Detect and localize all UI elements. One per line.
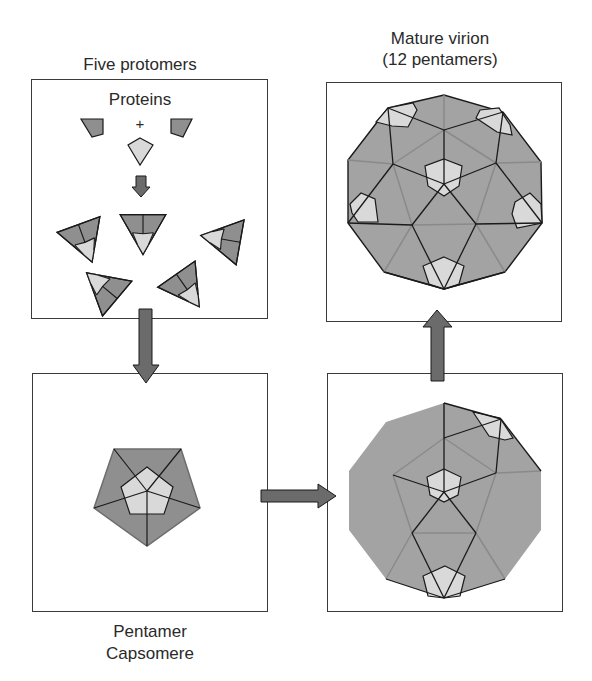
protein-subunit-left <box>81 119 103 137</box>
protein-subunit-right <box>171 119 192 137</box>
arrow-down-icon <box>133 309 159 383</box>
arrow-right-icon <box>261 484 336 508</box>
mature-virion <box>348 95 542 289</box>
protomer-5 <box>158 261 218 320</box>
diagram-graphics <box>0 0 592 681</box>
protomer-4 <box>72 255 132 316</box>
pentamer-capsomere <box>94 449 200 546</box>
arrow-up-icon <box>423 310 452 381</box>
protomer-1 <box>120 215 166 255</box>
protein-subunit-center <box>128 138 153 165</box>
partial-capsid <box>349 403 541 598</box>
protomer-3 <box>197 213 244 265</box>
arrow-down-small-icon <box>132 176 150 197</box>
protomer-2 <box>57 217 113 270</box>
